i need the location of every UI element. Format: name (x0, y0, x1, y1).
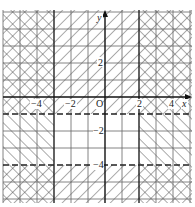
x-tick-label-neg4: −4 (31, 98, 42, 109)
region-mid-right-slash (139, 114, 192, 165)
region-bottom-left-cross-2 (3, 165, 54, 203)
x-tick-label-4: 4 (169, 98, 174, 109)
origin-label: O (96, 98, 103, 109)
coordinate-plane-figure: −4 −2 O 2 4 x y 2 −2 −4 (0, 0, 195, 207)
y-tick-label-neg2: −2 (93, 125, 104, 136)
region-bottom-middle-backslash (54, 165, 139, 203)
y-axis-label: y (96, 12, 102, 23)
x-tick-label-2: 2 (137, 98, 142, 109)
x-axis-label: x (181, 98, 187, 109)
region-top-left-cross-2 (3, 10, 54, 114)
x-tick-label-neg2: −2 (65, 98, 76, 109)
region-bottom-right-cross-2 (139, 165, 192, 203)
region-mid-left-slash (3, 114, 54, 165)
y-tick-label-2: 2 (98, 57, 103, 68)
y-tick-label-neg4: −4 (93, 159, 104, 170)
